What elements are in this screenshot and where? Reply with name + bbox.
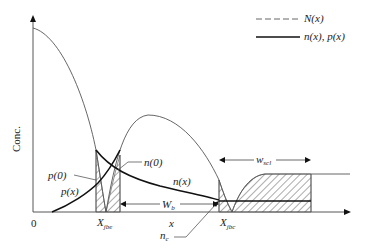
x-axis-label: x [168,217,174,229]
nx-label: n(x) [173,175,191,188]
wb-label: Wb [162,198,175,212]
y-axis-label: Conc. [10,126,22,152]
x-axis-arrow-icon [344,209,351,215]
legend: N(x) n(x), p(x) [256,12,345,43]
n0-label: n(0) [144,156,163,169]
wb-dimension: Wb [120,198,219,212]
legend-label-N: N(x) [303,12,324,25]
xjbc-label: Xjbc [219,216,236,231]
y-axis-arrow-icon [30,15,36,22]
xjbe-label: Xjbe [96,216,112,231]
depletion-hatch-regions [96,150,311,212]
wscl-dimension: wscl [219,153,311,167]
origin-label: 0 [31,217,37,229]
legend-label-n-p: n(x), p(x) [304,30,345,43]
y-axis [30,15,36,212]
p0-label: p(0) [47,169,67,182]
px-label: p(x) [60,185,79,198]
wscl-label: wscl [256,153,271,167]
bjt-concentration-diagram: N(x) n(x), p(x) Conc. 0 x p(0) p(x) n(0)… [0,0,367,251]
nc-label: nc [160,229,170,243]
